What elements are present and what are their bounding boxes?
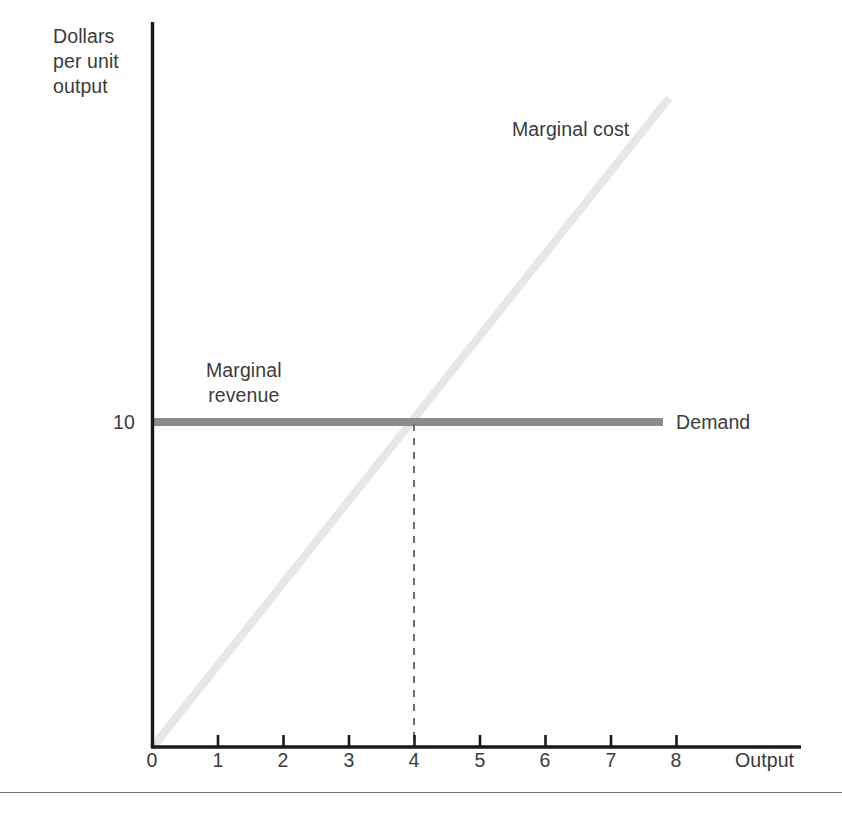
x-axis-title: Output [735,748,794,773]
x-axis-tick-label-6: 6 [530,748,560,773]
x-axis-tick-label-2: 2 [268,748,298,773]
x-axis-tick-label-3: 3 [334,748,364,773]
figure-bottom-rule [0,792,842,793]
marginal-cost-label: Marginal cost [512,117,629,142]
y-axis-title-line-2: per unit [53,50,119,72]
y-axis-title-line-3: output [53,75,108,97]
x-axis-tick-label-7: 7 [596,748,626,773]
economics-chart-figure: Dollarsper unitoutput 10 Marginal cost M… [0,0,842,815]
y-axis-title-line-1: Dollars [53,25,114,47]
x-axis-tick-label-0: 0 [137,748,167,773]
marginal-revenue-label: Marginalrevenue [206,358,282,408]
y-axis-tick-label-10: 10 [113,410,135,435]
chart-plot-area [0,0,842,815]
x-axis-tick-label-4: 4 [399,748,429,773]
x-axis-tick-label-8: 8 [661,748,691,773]
x-axis-tick-label-1: 1 [203,748,233,773]
x-axis-ticks [218,735,677,747]
marginal-revenue-label-line-2: revenue [208,384,279,406]
y-axis-title: Dollarsper unitoutput [53,24,119,99]
demand-label: Demand [676,410,750,435]
x-axis-tick-label-5: 5 [465,748,495,773]
marginal-revenue-label-line-1: Marginal [206,359,282,381]
